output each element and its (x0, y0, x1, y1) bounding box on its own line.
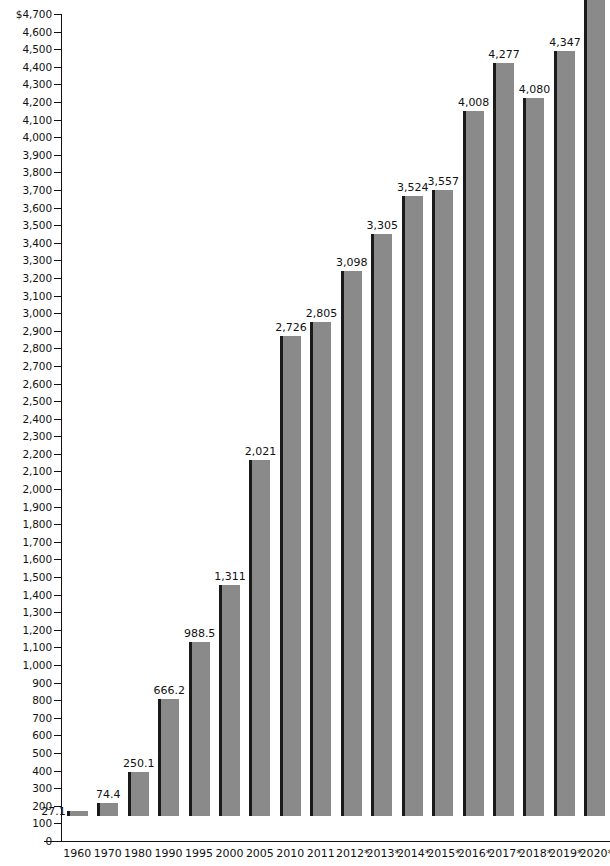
y-axis-tick-mark (54, 49, 61, 50)
y-axis-tick-mark (54, 683, 61, 684)
y-axis-tick-label: 1,400 (0, 589, 52, 601)
bar-rect (463, 111, 484, 816)
bar-1980: 250.1 (128, 0, 149, 816)
y-axis-tick-mark (54, 14, 61, 15)
y-axis-tick-label: 700 (0, 712, 52, 724)
y-axis-tick-mark (54, 243, 61, 244)
y-axis-tick-label: 300 (0, 782, 52, 794)
y-axis-tick-label: 100 (0, 817, 52, 829)
bar-2000: 1,311 (219, 0, 240, 816)
bar-rect (219, 585, 240, 816)
y-axis-tick-mark (54, 260, 61, 261)
y-axis-tick-label: 2,000 (0, 483, 52, 495)
x-axis-tick-label: 2016* (458, 845, 488, 863)
y-axis-tick-label: 600 (0, 729, 52, 741)
bar-2015: 3,557 (432, 0, 453, 816)
bar-2010: 2,726 (280, 0, 301, 816)
y-axis-tick-mark (54, 823, 61, 824)
y-axis-tick-mark (54, 647, 61, 648)
y-axis-tick-mark (54, 296, 61, 297)
bar-value-label: 2,726 (275, 322, 307, 334)
bar-2014: 3,524 (402, 0, 423, 816)
y-axis-tick-mark (54, 524, 61, 525)
bar-2013: 3,305 (371, 0, 392, 816)
x-axis-tick-label: 2005 (245, 845, 275, 863)
x-axis-tick-label: 2000 (214, 845, 244, 863)
y-axis-tick-label: 3,700 (0, 184, 52, 196)
y-axis-tick-mark (54, 190, 61, 191)
bar-2005: 2,021 (249, 0, 270, 816)
y-axis-tick-label: 3,200 (0, 272, 52, 284)
x-axis-tick-label: 1970 (92, 845, 122, 863)
y-axis-tick-label: 1,600 (0, 553, 52, 565)
y-axis-tick-label: 1,700 (0, 536, 52, 548)
bar-rect (310, 322, 331, 816)
y-axis-tick-mark (54, 348, 61, 349)
bar-rect (280, 336, 301, 816)
y-axis-tick-label: 3,000 (0, 307, 52, 319)
y-axis-tick-label: 1,800 (0, 518, 52, 530)
bar-2016: 4,008 (463, 0, 484, 816)
y-axis-tick-label: 500 (0, 747, 52, 759)
y-axis-tick-label: 2,300 (0, 430, 52, 442)
y-axis-tick-label: 2,400 (0, 413, 52, 425)
bar-value-label: 4,080 (519, 84, 551, 96)
y-axis-tick-mark (54, 208, 61, 209)
y-axis-tick-mark (54, 436, 61, 437)
y-axis-tick-label: 3,500 (0, 219, 52, 231)
bar-2011: 2,805 (310, 0, 331, 816)
y-axis-tick-label: 4,200 (0, 96, 52, 108)
bar-2012: 3,098 (341, 0, 362, 816)
y-axis-tick-label: 2,800 (0, 342, 52, 354)
y-axis-tick-label: 1,500 (0, 571, 52, 583)
bar-value-label: 3,557 (427, 176, 459, 188)
y-axis-tick-mark (54, 155, 61, 156)
x-axis-tick-label: 2012* (336, 845, 366, 863)
bar-rect (189, 642, 210, 816)
y-axis-tick-mark (54, 507, 61, 508)
bar-value-label: 4,277 (488, 49, 520, 61)
y-axis-tick-mark (54, 225, 61, 226)
y-axis-tick-mark (54, 331, 61, 332)
y-axis-tick-mark (54, 384, 61, 385)
y-axis-tick-label: 1,300 (0, 606, 52, 618)
x-axis-tick-label: 2010 (275, 845, 305, 863)
y-axis-tick-label: 1,000 (0, 659, 52, 671)
y-axis-tick-mark (54, 401, 61, 402)
x-axis-line (44, 841, 610, 842)
y-axis-tick-mark (54, 172, 61, 173)
bar-rect (584, 0, 605, 816)
bar-1995: 988.5 (189, 0, 210, 816)
x-axis-tick-label: 2018* (519, 845, 549, 863)
bar-rect (493, 63, 514, 816)
y-axis-tick-mark (54, 84, 61, 85)
bar-chart: $4,7004,6004,5004,4004,3004,2004,1004,00… (0, 0, 610, 866)
x-axis-tick-label: 1995 (184, 845, 214, 863)
x-axis-tick-label: 1960 (62, 845, 92, 863)
bar-value-label: 3,305 (367, 220, 399, 232)
x-axis-tick-label: 2015* (427, 845, 457, 863)
y-axis-tick-mark (54, 489, 61, 490)
bar-value-label: 988.5 (184, 628, 216, 640)
x-axis-tick-label: 2020* (580, 845, 610, 863)
bar-value-label: 74.4 (96, 789, 121, 801)
y-axis-tick-label: 2,600 (0, 378, 52, 390)
y-axis-tick-mark (54, 841, 61, 842)
y-axis-tick-label: 800 (0, 694, 52, 706)
y-axis-tick-label: 1,900 (0, 501, 52, 513)
bar-1990: 666.2 (158, 0, 179, 816)
bar-value-label: 3,524 (397, 182, 429, 194)
y-axis-tick-label: 1,200 (0, 624, 52, 636)
bar-value-label: 666.2 (153, 685, 185, 697)
y-axis-tick-label: 2,900 (0, 325, 52, 337)
y-axis-tick-label: 3,900 (0, 149, 52, 161)
y-axis-tick-label: 900 (0, 677, 52, 689)
y-axis-tick-mark (54, 313, 61, 314)
y-axis-tick-mark (54, 595, 61, 596)
bar-rect (128, 772, 149, 816)
bar-2018: 4,080 (523, 0, 544, 816)
y-axis-tick-label: 1,100 (0, 641, 52, 653)
y-axis-tick-mark (54, 454, 61, 455)
bar-value-label: 4,008 (458, 97, 490, 109)
bar-rect (523, 98, 544, 816)
